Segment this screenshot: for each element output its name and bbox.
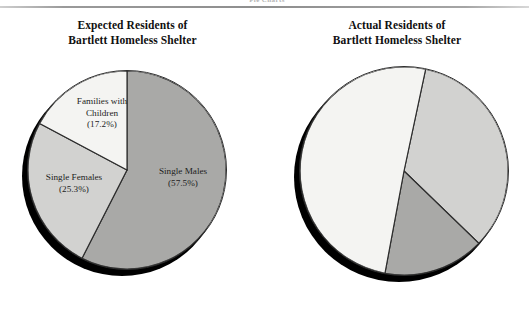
pie-stage-actual xyxy=(292,60,518,288)
pie-label-expected-families-name-line2: Children xyxy=(56,108,148,120)
pie-label-expected-single-males: Single Males (57.5%) xyxy=(140,166,226,189)
chart-title-actual: Actual Residents of Bartlett Homeless Sh… xyxy=(265,18,529,48)
pie-label-expected-females-name: Single Females xyxy=(26,172,122,184)
chart-title-actual-line1: Actual Residents of xyxy=(265,18,529,33)
pie-label-expected-single-females: Single Females (25.3%) xyxy=(26,172,122,195)
chart-title-expected-line2: Bartlett Homeless Shelter xyxy=(0,33,265,48)
pie-svg-actual xyxy=(300,67,508,275)
pie-label-expected-families-name-line1: Families with xyxy=(56,96,148,108)
pie-label-expected-families-with-children: Families with Children (17.2%) xyxy=(56,96,148,131)
pie-label-expected-males-name: Single Males xyxy=(140,166,226,178)
chart-panel-actual: Actual Residents of Bartlett Homeless Sh… xyxy=(265,0,529,313)
pie-label-expected-families-percent: (17.2%) xyxy=(56,119,148,131)
pie-chart-actual xyxy=(299,66,509,276)
pie-label-expected-females-percent: (25.3%) xyxy=(26,184,122,196)
pie-label-expected-males-percent: (57.5%) xyxy=(140,178,226,190)
chart-title-actual-line2: Bartlett Homeless Shelter xyxy=(265,33,529,48)
chart-panel-expected: Expected Residents of Bartlett Homeless … xyxy=(0,0,265,313)
chart-title-expected: Expected Residents of Bartlett Homeless … xyxy=(0,18,265,48)
chart-title-expected-line1: Expected Residents of xyxy=(0,18,265,33)
